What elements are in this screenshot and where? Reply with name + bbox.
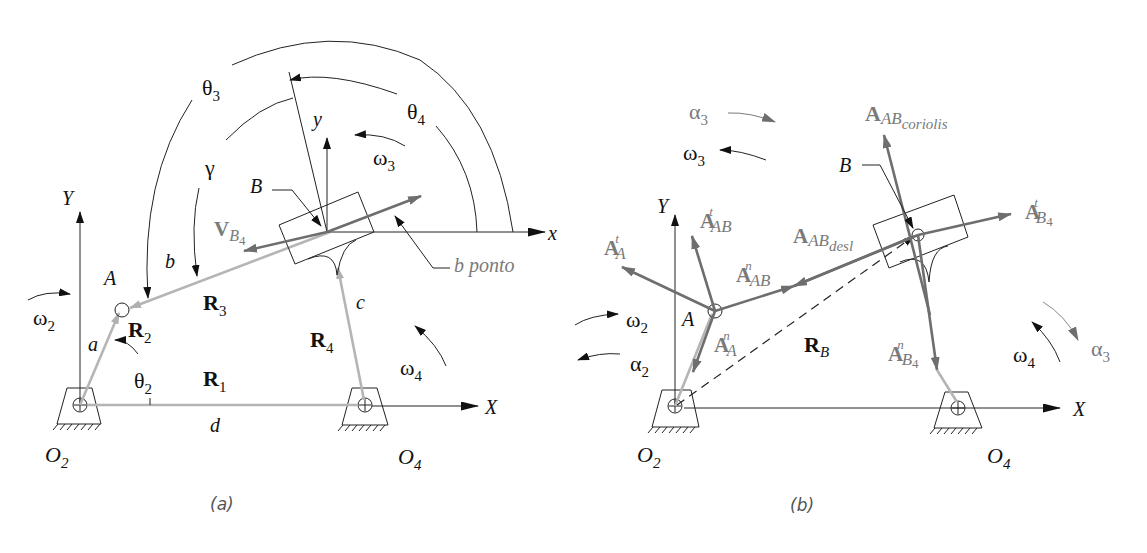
label-omega4: ω4 <box>400 355 422 384</box>
label-at-ab: AtAB <box>700 204 732 236</box>
label-omega2: ω2 <box>33 305 55 334</box>
label-axis-x: X <box>484 396 498 418</box>
label-link-a: a <box>88 333 98 355</box>
vector-at-b4 <box>918 214 1011 235</box>
label-o2: O2 <box>45 442 69 471</box>
label-at-a: AtA <box>604 231 626 262</box>
vector-an-b4 <box>918 235 937 370</box>
label-point-a: A <box>102 267 117 289</box>
label-an-a: AnA <box>714 328 737 359</box>
label-link-d: d <box>210 414 221 436</box>
ground-pivot-o2 <box>648 390 699 433</box>
label-theta2: θ2 <box>134 368 152 397</box>
label-at-b4: AtB4 <box>1025 195 1053 229</box>
vector-aab-coriolis <box>884 135 930 315</box>
label-o4: O4 <box>987 443 1011 472</box>
omega4-arrow <box>1032 322 1060 362</box>
omega2-arrow <box>575 314 618 325</box>
pin-a <box>115 303 129 317</box>
label-aab-desl: AABdesl <box>793 224 853 254</box>
alpha2-arrow <box>578 354 620 360</box>
label-link-b: b <box>165 250 175 272</box>
crank-r2 <box>80 313 119 405</box>
omega3-arrow <box>720 150 766 160</box>
label-omega4: ω4 <box>1013 342 1035 371</box>
label-r1: R1 <box>203 366 226 395</box>
ground-pivot-o2 <box>53 388 101 430</box>
panel-b: α3 ω3 B AABcoriolis Y AtAB AtA AABdesl A… <box>575 99 1110 515</box>
label-r2: R2 <box>128 317 151 346</box>
label-rb: RB <box>804 332 829 360</box>
label-link-c: c <box>356 291 365 313</box>
label-point-b: B <box>839 154 851 176</box>
label-an-b4: AnB4 <box>888 337 919 371</box>
vector-at-ab <box>692 236 715 311</box>
label-alpha3-top: α3 <box>689 99 708 128</box>
label-omega2: ω2 <box>626 307 648 336</box>
label-axis-y: Y <box>62 187 75 209</box>
label-an-ab: AnAB <box>736 258 771 290</box>
label-theta4: θ4 <box>407 99 426 128</box>
label-theta3: θ3 <box>202 75 220 104</box>
coupler-ref-line <box>289 72 327 232</box>
theta3-arc <box>232 41 513 232</box>
label-point-a: A <box>680 308 695 330</box>
slider-block <box>873 195 968 282</box>
velocity-b-dot <box>327 196 421 232</box>
panel-a: θ3 γ θ4 ω3 y x B VB4 b ponto Y X b A ω2 … <box>28 41 557 514</box>
gamma-arc <box>226 98 293 140</box>
label-r4: R4 <box>310 327 334 356</box>
label-r3: R3 <box>203 290 226 319</box>
label-local-x: x <box>547 222 557 244</box>
caption-b: (b) <box>790 495 814 515</box>
label-omega3: ω3 <box>373 145 395 174</box>
label-gamma: γ <box>204 155 215 180</box>
label-o4: O4 <box>398 444 422 473</box>
theta4-arc <box>290 77 397 94</box>
label-o2: O2 <box>637 442 661 471</box>
label-axis-y: Y <box>657 195 670 217</box>
label-omega3: ω3 <box>683 140 705 169</box>
rocker-r4 <box>338 268 364 400</box>
caption-a: (a) <box>210 494 234 514</box>
label-vb4: VB4 <box>214 217 246 248</box>
label-alpha2: α2 <box>630 351 649 380</box>
vector-at-a <box>622 267 715 311</box>
label-aab-coriolis: AABcoriolis <box>865 101 948 132</box>
label-b-ponto: b ponto <box>454 254 515 277</box>
fourbar-kinematics-figure: θ3 γ θ4 ω3 y x B VB4 b ponto Y X b A ω2 … <box>0 0 1147 553</box>
label-local-y: y <box>311 108 322 131</box>
label-axis-x: X <box>1072 398 1086 420</box>
vector-an-a <box>693 311 715 372</box>
label-alpha3-right: α3 <box>1091 336 1110 365</box>
label-point-b: B <box>250 175 262 197</box>
